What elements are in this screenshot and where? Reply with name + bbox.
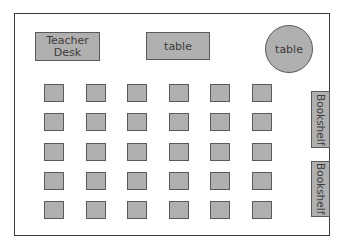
student-desk — [127, 143, 147, 161]
teacher-desk-label-line2: Desk — [46, 47, 89, 59]
student-desk — [127, 84, 147, 102]
student-desk — [127, 113, 147, 131]
bookshelf-2: Bookshelf — [311, 161, 330, 217]
student-desk — [210, 201, 230, 219]
student-desk — [86, 201, 106, 219]
student-desk — [169, 143, 189, 161]
bookshelf-2-label: Bookshelf — [315, 163, 327, 214]
student-desk — [169, 84, 189, 102]
student-desk — [86, 113, 106, 131]
round-table: table — [265, 25, 313, 73]
student-desk — [169, 201, 189, 219]
student-desk — [86, 172, 106, 190]
student-desk — [252, 201, 272, 219]
student-desk — [44, 84, 64, 102]
student-desk — [86, 84, 106, 102]
student-desk — [44, 113, 64, 131]
student-desk — [210, 172, 230, 190]
teacher-desk: Teacher Desk — [35, 32, 100, 61]
student-desk — [252, 172, 272, 190]
student-desk — [86, 143, 106, 161]
student-desk — [44, 201, 64, 219]
student-desk — [252, 143, 272, 161]
student-desk — [127, 172, 147, 190]
student-desk — [252, 84, 272, 102]
student-desk — [44, 143, 64, 161]
bookshelf-1: Bookshelf — [311, 91, 330, 148]
bookshelf-1-label: Bookshelf — [315, 94, 327, 145]
rectangular-table: table — [146, 32, 210, 60]
student-desk — [169, 113, 189, 131]
student-desk — [210, 143, 230, 161]
teacher-desk-label-line1: Teacher — [46, 35, 89, 47]
student-desk — [44, 172, 64, 190]
student-desk — [169, 172, 189, 190]
rectangular-table-label: table — [164, 40, 192, 53]
student-desk — [210, 84, 230, 102]
student-desk — [252, 113, 272, 131]
student-desk — [127, 201, 147, 219]
student-desk — [210, 113, 230, 131]
round-table-label: table — [275, 43, 303, 56]
